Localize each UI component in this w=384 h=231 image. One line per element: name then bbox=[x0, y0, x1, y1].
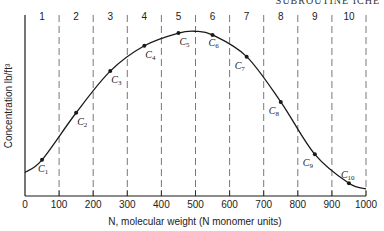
data-point-label: C5 bbox=[179, 36, 190, 49]
data-point-marker bbox=[108, 69, 112, 73]
interval-labels: 12345678910 bbox=[39, 11, 355, 22]
data-point-label: C2 bbox=[77, 116, 88, 129]
x-tick-label: 900 bbox=[324, 199, 341, 210]
data-point-marker bbox=[40, 158, 44, 162]
x-tick-label: 200 bbox=[85, 199, 102, 210]
data-point-label: C8 bbox=[269, 105, 280, 118]
interval-label: 4 bbox=[142, 11, 148, 22]
data-point-marker bbox=[142, 44, 146, 48]
x-tick-label: 1000 bbox=[355, 199, 378, 210]
concentration-chart: 12345678910 C1C2C3C4C5C6C7C8C9C10 010020… bbox=[0, 0, 384, 231]
interval-label: 9 bbox=[312, 11, 318, 22]
interval-label: 1 bbox=[39, 11, 45, 22]
data-point-marker bbox=[245, 55, 249, 59]
x-tick-label: 0 bbox=[22, 199, 28, 210]
y-axis-title: Concentration lb/ft³ bbox=[3, 63, 14, 148]
data-points: C1C2C3C4C5C6C7C8C9C10 bbox=[38, 31, 355, 185]
interval-label: 8 bbox=[278, 11, 284, 22]
interval-label: 3 bbox=[107, 11, 113, 22]
x-tick-label: 100 bbox=[51, 199, 68, 210]
data-point-label: C6 bbox=[209, 37, 220, 50]
data-point-label: C1 bbox=[38, 163, 49, 176]
data-point-label: C3 bbox=[111, 74, 122, 87]
x-tick-label: 600 bbox=[221, 199, 238, 210]
data-point-marker bbox=[279, 100, 283, 104]
data-point-marker bbox=[313, 152, 317, 156]
data-point-label: C4 bbox=[145, 49, 156, 62]
interval-label: 2 bbox=[73, 11, 79, 22]
data-point-label: C9 bbox=[303, 157, 314, 170]
interval-label: 5 bbox=[176, 11, 182, 22]
x-tick-label: 400 bbox=[153, 199, 170, 210]
interval-label: 6 bbox=[210, 11, 216, 22]
data-point-marker bbox=[176, 31, 180, 35]
x-axis-title: N, molecular weight (N monomer units) bbox=[108, 216, 281, 227]
data-point-label: C10 bbox=[341, 169, 355, 182]
x-tick-labels: 01002003004005006007008009001000 bbox=[22, 199, 377, 210]
x-tick-label: 500 bbox=[187, 199, 204, 210]
x-tick-label: 700 bbox=[255, 199, 272, 210]
data-point-label: C7 bbox=[235, 60, 246, 73]
data-point-marker bbox=[74, 111, 78, 115]
x-tick-label: 300 bbox=[119, 199, 136, 210]
interval-label: 7 bbox=[244, 11, 250, 22]
interval-label: 10 bbox=[343, 11, 355, 22]
x-tick-label: 800 bbox=[289, 199, 306, 210]
